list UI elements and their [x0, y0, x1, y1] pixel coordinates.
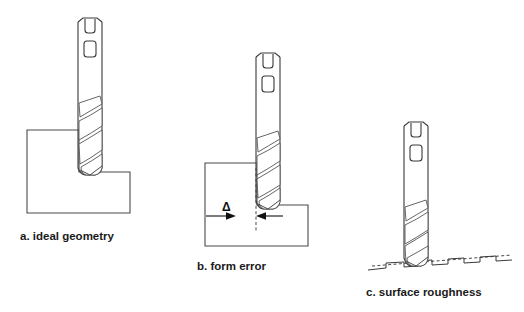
machining-error-figure: Δ a. ideal geometry b. — [0, 0, 524, 312]
panel-a — [27, 18, 130, 213]
caption-c: c. surface roughness — [366, 286, 482, 298]
end-mill-a — [78, 18, 102, 175]
panel-c — [368, 122, 512, 270]
delta-symbol: Δ — [222, 200, 231, 214]
caption-b: b. form error — [197, 260, 267, 272]
end-mill-c — [404, 122, 428, 266]
end-mill-b — [256, 53, 280, 209]
caption-a: a. ideal geometry — [20, 230, 115, 242]
panel-b: Δ — [205, 53, 308, 246]
rough-surface-profile — [368, 256, 512, 270]
